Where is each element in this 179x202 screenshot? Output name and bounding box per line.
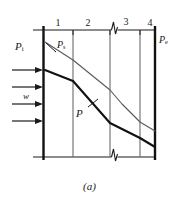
flow-arrow-1 [12,67,43,73]
flow-arrow-3 [12,101,43,107]
flow-arrow-2 [12,84,43,90]
inlet-pressure-symbol: P [15,40,22,52]
station-number-1: 1 [51,18,65,28]
exit-pressure-subscript: e [165,38,168,45]
station-number-3: 3 [119,17,133,27]
inlet-pressure-label: Pi [15,41,24,53]
pressure-distribution-diagram [0,0,179,202]
static-pressure-curve [45,42,155,131]
pressure-curve-label: P [76,108,83,119]
flow-rate-label: w [23,92,29,101]
flow-arrow-4 [12,118,43,124]
exit-pressure-label: Pe [159,35,168,45]
inlet-pressure-subscript: i [22,45,24,52]
figure-caption: (a) [0,180,179,192]
station-number-2: 2 [81,18,95,28]
bottom-axis-break-icon [112,149,118,161]
station-number-4: 4 [143,18,157,28]
figure-container: 1 2 3 4 Pi Ps Pe P w (a) [0,0,179,202]
static-pressure-subscript: s [63,43,65,50]
static-pressure-label: Ps [57,40,66,50]
top-axis-break-icon [112,22,118,34]
